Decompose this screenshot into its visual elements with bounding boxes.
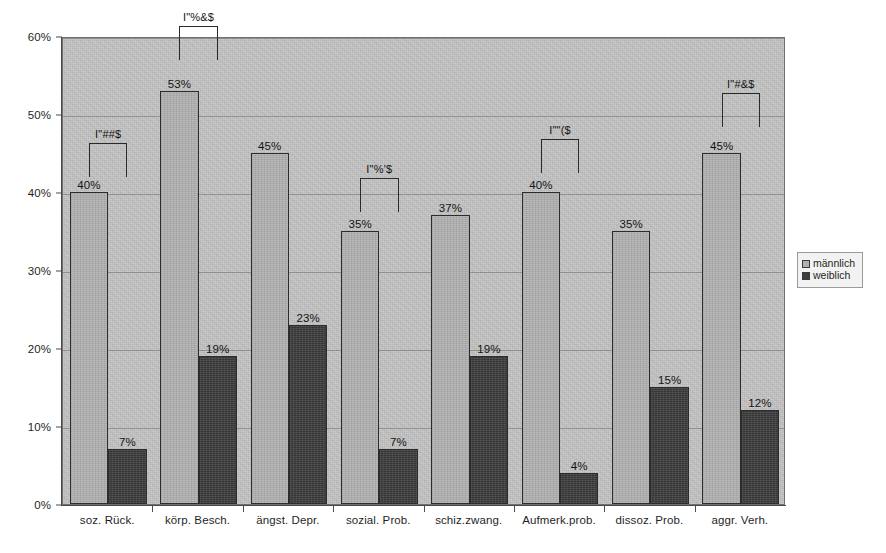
bar-value-label: 37% [439, 202, 462, 214]
significance-label: I"%'$ [366, 163, 392, 175]
x-axis-category-label: ängst. Depr. [256, 514, 319, 526]
bar-male-5 [522, 192, 560, 504]
bar-value-label: 45% [258, 140, 281, 152]
bar-female-4 [470, 356, 508, 504]
bar-male-1 [160, 91, 198, 504]
bar-value-label: 7% [119, 436, 136, 448]
significance-bracket [179, 26, 217, 60]
x-axis-category-label: Aufmerk.prob. [522, 514, 596, 526]
bar-chart: 0%10%20%30%40%50%60% 40%7%53%19%45%23%35… [0, 0, 886, 553]
plot-area: 40%7%53%19%45%23%35%7%37%19%40%4%35%15%4… [62, 37, 785, 505]
bar-value-label: 45% [710, 140, 733, 152]
x-axis-category-label: dissoz. Prob. [616, 514, 684, 526]
bar-male-0 [70, 192, 108, 504]
legend-item-maennlich: männlich [802, 258, 859, 269]
significance-label: I"%&$ [183, 11, 214, 23]
x-axis-category-label: sozial. Prob. [346, 514, 411, 526]
bar-female-6 [650, 387, 688, 504]
significance-label: I"##$ [95, 128, 121, 140]
x-axis-category-label: soz. Rück. [80, 514, 135, 526]
bar-value-label: 4% [571, 460, 588, 472]
bar-value-label: 40% [77, 179, 100, 191]
bar-value-label: 12% [748, 397, 771, 409]
significance-label: I""($ [549, 124, 571, 136]
bar-value-label: 15% [658, 374, 681, 386]
y-axis-tick-label: 20% [28, 343, 51, 355]
x-axis-separator [604, 506, 605, 512]
legend-swatch-icon-weiblich [802, 272, 810, 280]
bar-female-2 [289, 325, 327, 504]
bar-value-label: 53% [168, 78, 191, 90]
bar-value-label: 19% [206, 343, 229, 355]
y-axis-tick-label: 10% [28, 421, 51, 433]
x-axis-separator [514, 506, 515, 512]
bar-male-3 [341, 231, 379, 504]
x-axis-category-label: körp. Besch. [165, 514, 230, 526]
bar-female-3 [379, 449, 417, 504]
bar-value-label: 23% [296, 312, 319, 324]
significance-label: I"#&$ [727, 78, 755, 90]
significance-bracket [360, 178, 398, 212]
gridline [63, 38, 784, 39]
significance-bracket [722, 93, 760, 127]
x-axis-separator [243, 506, 244, 512]
x-axis-category-label: aggr. Verh. [711, 514, 768, 526]
bar-female-5 [560, 473, 598, 504]
x-axis-separator [424, 506, 425, 512]
y-axis-tick-label: 30% [28, 265, 51, 277]
bar-female-1 [199, 356, 237, 504]
bar-value-label: 35% [620, 218, 643, 230]
significance-bracket [541, 139, 579, 173]
bar-male-4 [431, 215, 469, 504]
x-axis-separator [152, 506, 153, 512]
y-axis-tick-label: 0% [34, 499, 51, 511]
bar-value-label: 7% [390, 436, 407, 448]
bar-value-label: 35% [348, 218, 371, 230]
bar-value-label: 40% [529, 179, 552, 191]
x-axis-separator [695, 506, 696, 512]
y-axis-tick-label: 50% [28, 109, 51, 121]
bar-male-2 [251, 153, 289, 504]
x-axis-category-label: schiz.zwang. [435, 514, 502, 526]
bar-value-label: 19% [477, 343, 500, 355]
bar-male-7 [702, 153, 740, 504]
y-axis-tick-label: 60% [28, 31, 51, 43]
bar-female-0 [108, 449, 146, 504]
bar-male-6 [612, 231, 650, 504]
legend-swatch-icon-maennlich [802, 260, 810, 268]
legend-item-weiblich: weiblich [802, 270, 859, 281]
bar-female-7 [741, 410, 779, 504]
legend-label-maennlich: männlich [813, 258, 855, 269]
legend-label-weiblich: weiblich [813, 270, 850, 281]
significance-bracket [89, 143, 127, 177]
y-axis: 0%10%20%30%40%50%60% [0, 0, 62, 553]
legend: männlich weiblich [797, 252, 863, 288]
x-axis-separator [333, 506, 334, 512]
y-axis-tick-label: 40% [28, 187, 51, 199]
